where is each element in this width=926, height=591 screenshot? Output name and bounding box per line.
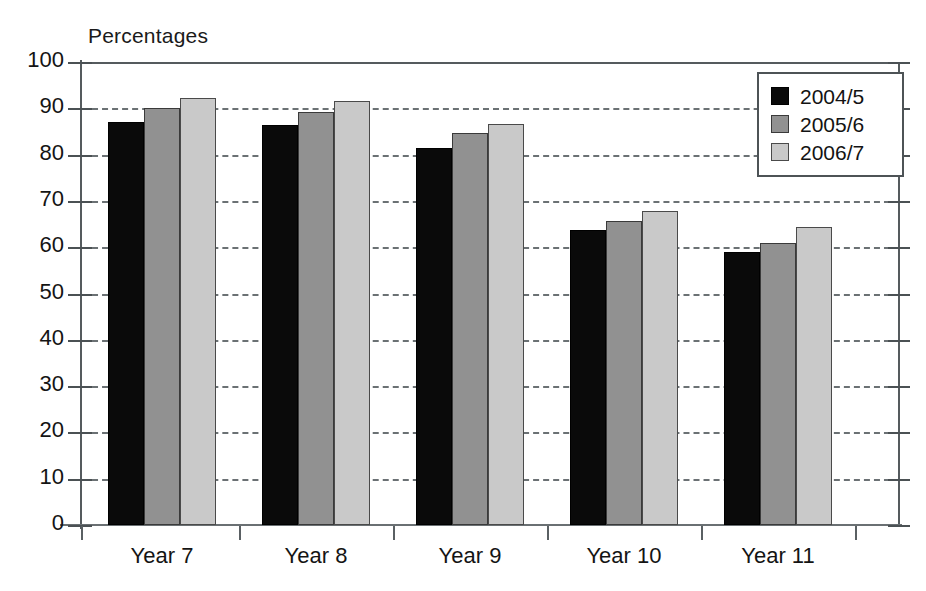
bar-chart: Percentages 0102030405060708090100 Year … xyxy=(0,0,926,591)
legend-item-label: 2004/5 xyxy=(800,86,864,107)
y-axis-tick xyxy=(68,155,92,157)
y-axis-tick xyxy=(68,479,92,481)
y-axis-tick-right xyxy=(888,525,910,527)
y-axis-tick-right xyxy=(888,294,910,296)
legend-item: 2006/7 xyxy=(771,138,892,166)
x-axis-label: Year 10 xyxy=(564,543,684,569)
x-axis-tick xyxy=(701,526,703,540)
y-axis-tick-right xyxy=(888,479,910,481)
x-axis-tick xyxy=(239,526,241,540)
y-axis-label: 100 xyxy=(8,47,64,73)
y-axis-label: 60 xyxy=(8,232,64,258)
y-axis-tick-right xyxy=(888,432,910,434)
legend-swatch-black-icon xyxy=(771,87,789,105)
legend-item-label: 2005/6 xyxy=(800,114,864,135)
y-axis-tick xyxy=(68,432,92,434)
x-axis-line xyxy=(60,524,902,526)
x-axis-tick xyxy=(547,526,549,540)
y-axis-label: 10 xyxy=(8,464,64,490)
y-axis-tick-right xyxy=(888,62,910,64)
y-axis-label: 90 xyxy=(8,93,64,119)
legend-item: 2005/6 xyxy=(771,110,892,138)
y-axis-tick-right xyxy=(888,386,910,388)
y-axis-tick xyxy=(68,62,92,64)
y-axis-tick-right xyxy=(888,201,910,203)
y-axis-label: 40 xyxy=(8,325,64,351)
chart-legend: 2004/5 2005/6 2006/7 xyxy=(757,72,904,177)
y-axis-tick xyxy=(68,386,92,388)
gridline xyxy=(82,340,900,342)
x-axis-label: Year 8 xyxy=(256,543,376,569)
x-axis-tick xyxy=(81,526,83,540)
y-axis-label: 20 xyxy=(8,417,64,443)
y-axis-tick xyxy=(68,294,92,296)
x-axis-label: Year 7 xyxy=(102,543,222,569)
legend-swatch-light-gray-icon xyxy=(771,143,789,161)
y-axis-label: 70 xyxy=(8,186,64,212)
y-axis-tick xyxy=(68,340,92,342)
legend-item: 2004/5 xyxy=(771,82,892,110)
x-axis-tick xyxy=(393,526,395,540)
legend-swatch-gray-icon xyxy=(771,115,789,133)
y-axis-label: 50 xyxy=(8,279,64,305)
y-axis-label: 0 xyxy=(8,510,64,536)
y-axis-tick xyxy=(68,525,92,527)
y-axis-title: Percentages xyxy=(88,24,208,48)
gridline xyxy=(82,201,900,203)
y-axis-label: 80 xyxy=(8,140,64,166)
gridline xyxy=(82,479,900,481)
gridline xyxy=(82,294,900,296)
y-axis-tick-right xyxy=(888,247,910,249)
y-axis-label: 30 xyxy=(8,371,64,397)
x-axis-tick xyxy=(855,526,857,540)
gridline xyxy=(82,386,900,388)
x-axis-label: Year 9 xyxy=(410,543,530,569)
gridline xyxy=(82,432,900,434)
y-axis-tick xyxy=(68,247,92,249)
legend-item-label: 2006/7 xyxy=(800,142,864,163)
y-axis-tick xyxy=(68,201,92,203)
x-axis-label: Year 11 xyxy=(718,543,838,569)
y-axis-tick-right xyxy=(888,340,910,342)
y-axis-tick xyxy=(68,108,92,110)
gridline xyxy=(82,247,900,249)
